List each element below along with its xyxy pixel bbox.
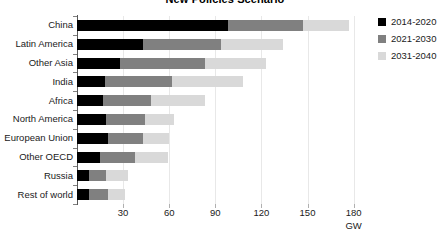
legend-item[interactable]: 2014-2020 [378,14,436,29]
x-axis-tick-label: 120 [253,207,269,218]
bar-row[interactable] [77,20,349,31]
bar-segment[interactable] [108,133,143,144]
y-axis-category-label: Africa [0,95,73,106]
y-axis-tick [73,72,77,73]
bar-row[interactable] [77,39,283,50]
bar-segment[interactable] [120,58,205,69]
x-axis-tick-label: 150 [300,207,316,218]
y-axis-tick [73,148,77,149]
legend-swatch-icon [378,52,386,60]
bar-segment[interactable] [77,133,108,144]
chart-legend: 2014-20202021-20302031-2040 [378,14,436,65]
gridline [354,16,355,204]
y-axis-category-label: China [0,19,73,30]
legend-label: 2021-2030 [391,34,436,44]
x-axis-unit-label: GW [345,220,361,231]
y-axis-tick [73,110,77,111]
bar-segment[interactable] [77,39,143,50]
bar-segment[interactable] [77,189,89,200]
bar-segment[interactable] [77,76,105,87]
bar-segment[interactable] [77,170,89,181]
y-axis-category-label: Other OECD [0,151,73,162]
legend-item[interactable]: 2021-2030 [378,31,436,46]
y-axis-tick [73,54,77,55]
y-axis-category-label: India [0,76,73,87]
x-axis-tick-label: 180 [346,207,362,218]
bar-segment[interactable] [103,95,151,106]
bar-segment[interactable] [100,152,135,163]
x-axis-tick-label: 90 [210,207,221,218]
bar-segment[interactable] [145,114,174,125]
bar-segment[interactable] [106,114,144,125]
bar-row[interactable] [77,133,169,144]
y-axis-tick [73,91,77,92]
legend-swatch-icon [378,18,386,26]
y-axis-category-labels: ChinaLatin AmericaOther AsiaIndiaAfricaN… [0,16,73,204]
bar-segment[interactable] [143,39,221,50]
bar-segment[interactable] [77,95,103,106]
legend-label: 2014-2020 [391,17,436,27]
bar-row[interactable] [77,170,128,181]
y-axis-tick [73,166,77,167]
bar-row[interactable] [77,114,174,125]
y-axis-tick [73,129,77,130]
y-axis-tick [73,16,77,17]
bar-row[interactable] [77,76,243,87]
bar-segment[interactable] [77,114,106,125]
y-axis-tick [73,35,77,36]
y-axis-tick [73,185,77,186]
y-axis-category-label: Latin America [0,38,73,49]
bar-segment[interactable] [151,95,205,106]
y-axis-category-label: European Union [0,132,73,143]
bar-segment[interactable] [303,20,349,31]
gridline [308,16,309,204]
bar-segment[interactable] [77,20,228,31]
bar-segment[interactable] [172,76,243,87]
bar-row[interactable] [77,95,205,106]
bar-row[interactable] [77,152,168,163]
y-axis-tick [73,204,77,205]
x-axis-tick-label: 30 [118,207,129,218]
bar-row[interactable] [77,189,125,200]
bar-segment[interactable] [89,170,106,181]
bar-segment[interactable] [143,133,169,144]
bar-segment[interactable] [77,58,120,69]
bar-segment[interactable] [106,170,128,181]
legend-swatch-icon [378,35,386,43]
y-axis-category-label: Russia [0,170,73,181]
chart-container: New Policies Scenario ChinaLatin America… [0,0,446,234]
y-axis-category-label: North America [0,113,73,124]
bar-segment[interactable] [108,189,125,200]
legend-item[interactable]: 2031-2040 [378,48,436,63]
bar-segment[interactable] [205,58,266,69]
bar-segment[interactable] [228,20,303,31]
bar-segment[interactable] [105,76,173,87]
y-axis-category-label: Other Asia [0,57,73,68]
chart-title: New Policies Scenario [100,0,350,5]
plot-area [77,16,369,204]
bar-segment[interactable] [77,152,100,163]
x-axis-tick-label: 60 [164,207,175,218]
bar-segment[interactable] [135,152,167,163]
bar-segment[interactable] [221,39,282,50]
y-axis-category-label: Rest of world [0,189,73,200]
bar-segment[interactable] [89,189,107,200]
bar-row[interactable] [77,58,266,69]
legend-label: 2031-2040 [391,51,436,61]
